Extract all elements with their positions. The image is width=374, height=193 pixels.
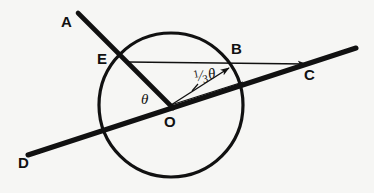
point-label-o: O [164, 114, 176, 129]
ray-o-toward-c [171, 82, 243, 105]
point-label-e: E [97, 51, 107, 66]
point-label-b: B [231, 41, 242, 56]
line-a-to-o [78, 13, 173, 108]
angle-label-theta: θ [141, 92, 148, 107]
ray-e-to-c [128, 62, 306, 64]
point-label-a: A [61, 14, 72, 29]
point-label-c: C [304, 67, 315, 82]
geometry-figure: A E B C D O θ 1⁄3θ [0, 0, 374, 193]
diagram-canvas [0, 0, 374, 193]
point-label-d: D [18, 155, 29, 170]
line-d-to-right [28, 48, 356, 155]
